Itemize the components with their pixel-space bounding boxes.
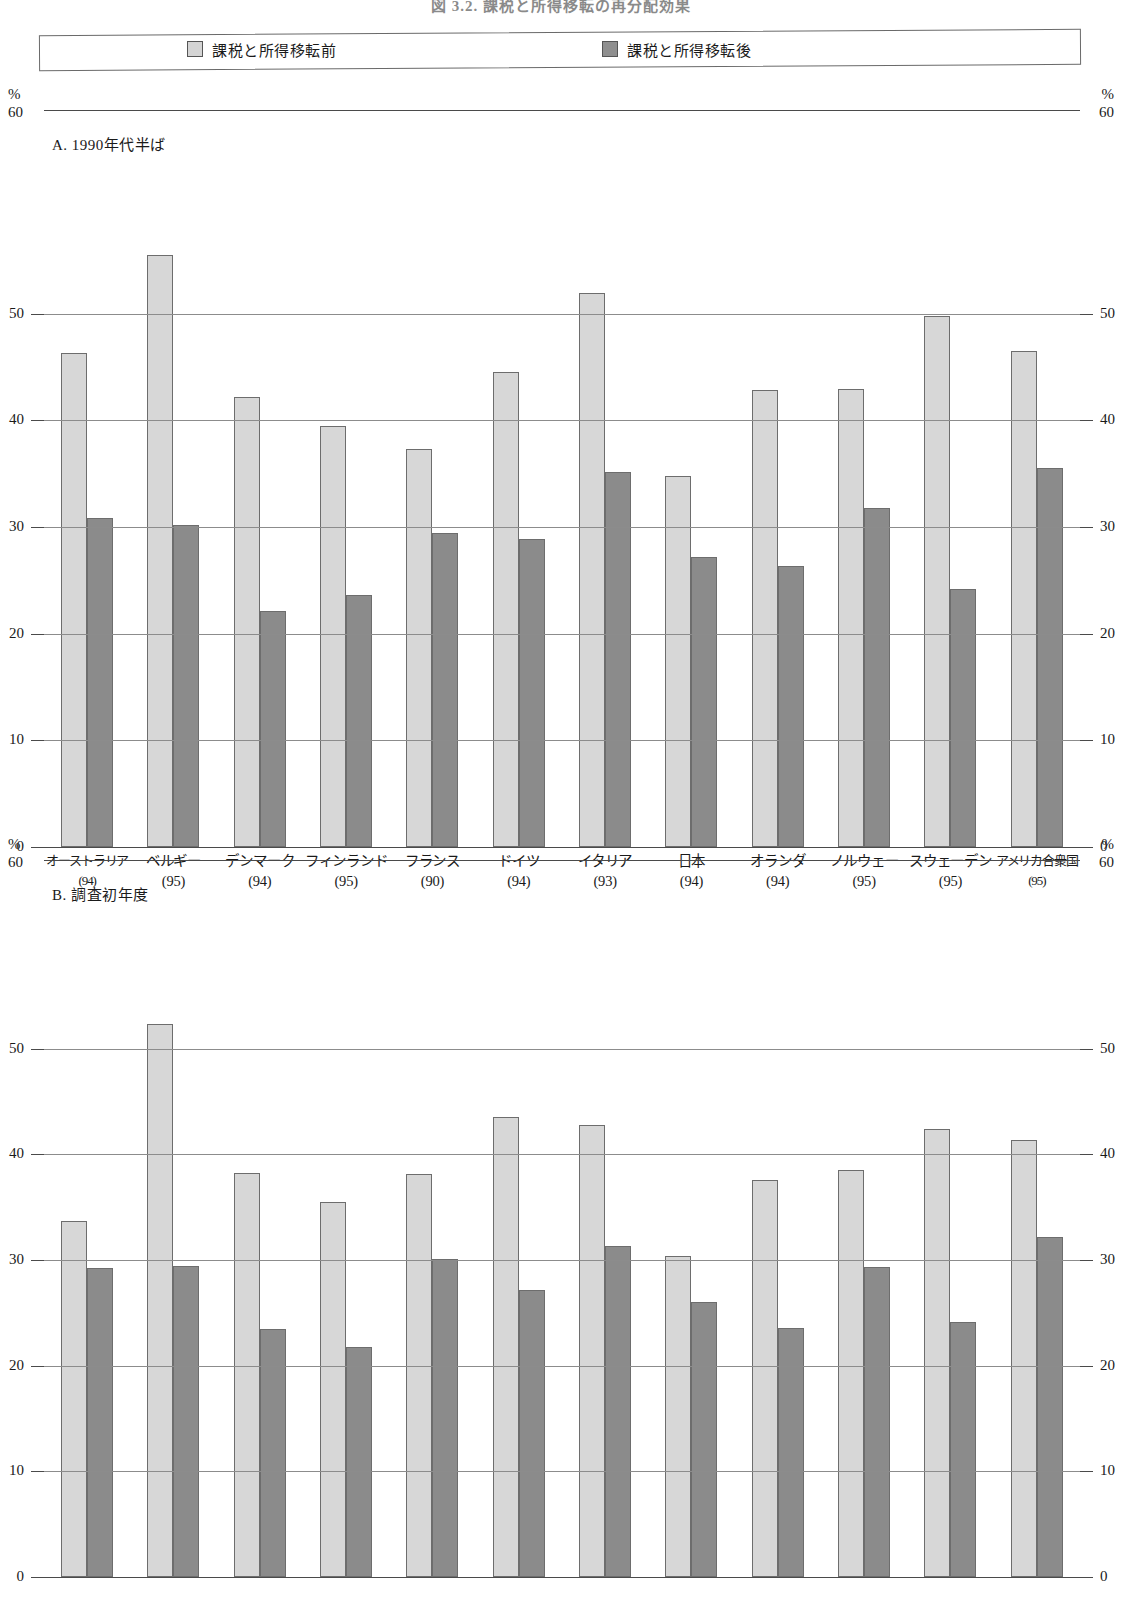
panel-a: % 60 % 60 A. 1990年代半ば 001010202030304040…: [0, 86, 1122, 816]
y-axis-tick: [1080, 1366, 1093, 1367]
panel-a-plot-area: 0010102020303040405050: [44, 207, 1080, 848]
bar-before[interactable]: [61, 353, 87, 847]
bar-before[interactable]: [665, 1256, 691, 1577]
legend-label-before: 課税と所得移転前: [212, 39, 336, 60]
bar-after[interactable]: [519, 539, 545, 847]
y-axis-tick-label-right: 10: [1100, 732, 1115, 747]
y-axis-tick: [1080, 1577, 1093, 1578]
y-axis-tick-label-right: 50: [1100, 306, 1115, 321]
legend-label-after: 課税と所得移転後: [627, 39, 751, 60]
y-axis-tick-label-left: 30: [9, 519, 24, 534]
bar-before[interactable]: [579, 1125, 605, 1577]
y-axis-tick: [1080, 1049, 1093, 1050]
y-axis-tick-label-right: 50: [1100, 1041, 1115, 1056]
bar-after[interactable]: [1037, 1237, 1063, 1577]
gridline: [44, 1366, 1080, 1367]
figure-title: 図 3.2. 課税と所得移転の再分配効果: [0, 0, 1122, 15]
gridline: [44, 740, 1080, 741]
bar-before[interactable]: [924, 316, 950, 847]
bar-after[interactable]: [519, 1290, 545, 1577]
bar-after[interactable]: [87, 518, 113, 847]
y-axis-tick: [31, 527, 44, 528]
y-axis-tick-label-left: 50: [9, 1041, 24, 1056]
bar-after[interactable]: [778, 566, 804, 847]
bar-after[interactable]: [864, 508, 890, 847]
y-axis-tick-label-right: 20: [1100, 626, 1115, 641]
bar-before[interactable]: [493, 1117, 519, 1577]
bar-after[interactable]: [432, 533, 458, 847]
bar-before[interactable]: [406, 1174, 432, 1577]
panel-b-right-unit: % 60: [1099, 837, 1114, 870]
bar-after[interactable]: [1037, 468, 1063, 847]
bar-after[interactable]: [605, 1246, 631, 1577]
bar-after[interactable]: [691, 557, 717, 847]
bar-after[interactable]: [691, 1302, 717, 1577]
y-axis-tick: [31, 634, 44, 635]
bar-before[interactable]: [1011, 351, 1037, 847]
gridline: [44, 1049, 1080, 1050]
bar-before[interactable]: [1011, 1140, 1037, 1577]
legend-swatch-after-icon: [602, 41, 618, 57]
panel-a-left-unit: % 60: [8, 87, 23, 120]
y-axis-tick: [31, 1260, 44, 1261]
legend-swatch-before-icon: [187, 41, 203, 57]
bar-before[interactable]: [838, 1170, 864, 1577]
y-axis-tick: [31, 1471, 44, 1472]
y-axis-tick-label-left: 50: [9, 306, 24, 321]
bar-after[interactable]: [173, 1266, 199, 1577]
legend-item-after: 課税と所得移転後: [602, 39, 751, 60]
panel-b-plot-area: 0010102020303040405050: [44, 943, 1080, 1578]
y-axis-tick-label-left: 20: [9, 1358, 24, 1373]
gridline: [44, 527, 1080, 528]
bar-before[interactable]: [234, 1173, 260, 1577]
bar-after[interactable]: [950, 1322, 976, 1577]
bar-before[interactable]: [752, 1180, 778, 1577]
bar-before[interactable]: [493, 372, 519, 847]
y-axis-tick: [31, 1154, 44, 1155]
bar-after[interactable]: [173, 525, 199, 847]
panel-a-title: A. 1990年代半ば: [52, 133, 166, 154]
y-axis-tick: [31, 314, 44, 315]
y-axis-tick: [31, 1366, 44, 1367]
bar-after[interactable]: [864, 1267, 890, 1577]
bar-before[interactable]: [406, 449, 432, 847]
panel-a-right-unit: % 60: [1099, 87, 1114, 120]
bar-before[interactable]: [234, 397, 260, 847]
y-axis-tick: [31, 740, 44, 741]
gridline: [44, 1471, 1080, 1472]
y-axis-tick-label-left: 40: [9, 1146, 24, 1161]
bar-before[interactable]: [320, 1202, 346, 1577]
bar-before[interactable]: [147, 1024, 173, 1577]
y-axis-tick-label-left: 30: [9, 1252, 24, 1267]
bar-before[interactable]: [838, 389, 864, 847]
y-axis-tick-label-left: 10: [9, 1463, 24, 1478]
y-axis-tick: [1080, 314, 1093, 315]
legend: 課税と所得移転前 課税と所得移転後: [39, 32, 1079, 66]
bar-before[interactable]: [147, 255, 173, 847]
bar-after[interactable]: [260, 611, 286, 847]
bar-before[interactable]: [579, 293, 605, 847]
y-axis-tick-label-right: 10: [1100, 1463, 1115, 1478]
bar-after[interactable]: [950, 589, 976, 847]
gridline: [44, 314, 1080, 315]
y-axis-tick-label-left: 20: [9, 626, 24, 641]
bar-before[interactable]: [320, 426, 346, 847]
bar-before[interactable]: [752, 390, 778, 847]
bar-before[interactable]: [665, 476, 691, 847]
bar-after[interactable]: [87, 1268, 113, 1577]
y-axis-tick: [1080, 740, 1093, 741]
y-axis-tick-label-right: 30: [1100, 519, 1115, 534]
bar-before[interactable]: [924, 1129, 950, 1577]
bar-after[interactable]: [346, 1347, 372, 1577]
bar-before[interactable]: [61, 1221, 87, 1577]
y-axis-tick: [1080, 634, 1093, 635]
legend-item-before: 課税と所得移転前: [187, 39, 336, 60]
bar-after[interactable]: [432, 1259, 458, 1577]
y-axis-tick: [1080, 1260, 1093, 1261]
gridline: [44, 634, 1080, 635]
gridline: [44, 1154, 1080, 1155]
y-axis-tick-label-left: 10: [9, 732, 24, 747]
y-axis-tick-label-left: 40: [9, 412, 24, 427]
gridline: [44, 1260, 1080, 1261]
y-axis-tick: [1080, 1471, 1093, 1472]
